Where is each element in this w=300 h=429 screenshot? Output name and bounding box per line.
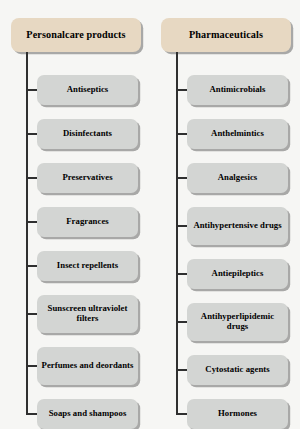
child-node: Analgesics [187, 163, 288, 193]
connector-stub [176, 133, 187, 135]
child-node-label: Cytostatic agents [205, 365, 269, 375]
column-personalcare: Personalcare productsAntisepticsDisinfec… [0, 0, 150, 429]
connector-stub [176, 321, 187, 323]
child-node: Anthelmintics [187, 119, 288, 149]
child-node: Soaps and shampoos [37, 399, 138, 429]
child-node: Cytostatic agents [187, 355, 288, 385]
child-node-label: Antimicrobials [209, 85, 265, 95]
connector-stub [26, 221, 37, 223]
root-node-label: Pharmaceuticals [189, 29, 263, 40]
child-node: Antihypertensive drugs [187, 207, 288, 245]
child-node: Antihyperlipidemic drugs [187, 303, 288, 341]
connector-stub [26, 133, 37, 135]
child-node-label: Soaps and shampoos [49, 409, 127, 419]
root-node-pharmaceuticals: Pharmaceuticals [161, 18, 291, 52]
child-node: Antimicrobials [187, 75, 288, 105]
connector-stub [26, 365, 37, 367]
child-node: Disinfectants [37, 119, 138, 149]
child-node: Antiepileptics [187, 259, 288, 289]
child-node-label: Antihyperlipidemic drugs [190, 312, 285, 331]
child-node: Fragrances [37, 207, 138, 237]
child-node-label: Fragrances [66, 217, 108, 227]
connector-stub [176, 89, 187, 91]
child-node-label: Preservatives [62, 173, 112, 183]
child-node: Preservatives [37, 163, 138, 193]
child-node-label: Antiseptics [67, 85, 109, 95]
connector-stub [176, 413, 187, 415]
child-node-label: Analgesics [218, 173, 258, 183]
connector-stub [26, 313, 37, 315]
child-node-label: Antihypertensive drugs [193, 221, 281, 231]
connector-stub [26, 413, 37, 415]
child-node-label: Anthelmintics [211, 129, 264, 139]
connector-stub [176, 225, 187, 227]
connector-stub [176, 177, 187, 179]
child-node: Insect repellents [37, 251, 138, 281]
child-node-label: Perfumes and deordants [42, 361, 134, 371]
child-node: Antiseptics [37, 75, 138, 105]
connector-trunk [26, 52, 28, 414]
connector-trunk [176, 52, 178, 414]
child-node-label: Antiepileptics [212, 269, 264, 279]
child-node: Sunscreen ultraviolet filters [37, 295, 138, 333]
child-node: Hormones [187, 399, 288, 429]
column-pharmaceuticals: PharmaceuticalsAntimicrobialsAnthelminti… [150, 0, 300, 429]
child-node: Perfumes and deordants [37, 347, 138, 385]
tree-diagram: Personalcare productsAntisepticsDisinfec… [0, 0, 300, 429]
child-node-label: Disinfectants [63, 129, 112, 139]
connector-stub [26, 265, 37, 267]
root-node-personalcare: Personalcare products [11, 18, 141, 52]
connector-stub [176, 369, 187, 371]
connector-stub [176, 273, 187, 275]
root-node-label: Personalcare products [26, 29, 125, 40]
connector-stub [26, 177, 37, 179]
connector-stub [26, 89, 37, 91]
child-node-label: Hormones [218, 409, 257, 419]
child-node-label: Insect repellents [57, 261, 118, 271]
child-node-label: Sunscreen ultraviolet filters [40, 304, 135, 323]
